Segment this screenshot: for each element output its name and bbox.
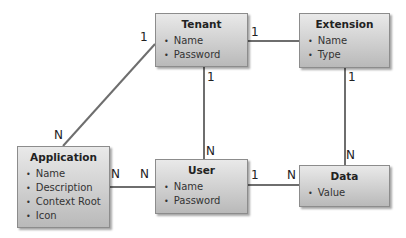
entity-title: Data xyxy=(300,170,389,182)
cardinality-label: 1 xyxy=(348,70,356,84)
entity-tenant: Tenant Name Password xyxy=(155,13,248,67)
attribute: Name xyxy=(164,34,247,48)
attribute: Password xyxy=(164,194,247,208)
cardinality-label: N xyxy=(54,128,63,142)
cardinality-label: 1 xyxy=(140,30,148,44)
entity-title: Application xyxy=(18,151,109,163)
entity-user: User Name Password xyxy=(155,159,248,214)
attribute: Password xyxy=(164,48,247,62)
entity-application: Application Name Description Context Roo… xyxy=(17,146,110,228)
attribute: Icon xyxy=(26,209,109,223)
entity-title: Tenant xyxy=(156,18,247,30)
cardinality-label: N xyxy=(287,168,296,182)
attribute: Value xyxy=(308,186,389,200)
attribute: Name xyxy=(164,180,247,194)
attribute: Type xyxy=(308,48,389,62)
attribute: Name xyxy=(26,167,109,181)
attribute: Description xyxy=(26,181,109,195)
cardinality-label: N xyxy=(346,148,355,162)
entity-extension: Extension Name Type xyxy=(299,13,390,68)
attribute: Name xyxy=(308,34,389,48)
entity-data: Data Value xyxy=(299,165,390,207)
cardinality-label: 1 xyxy=(251,25,259,39)
attribute: Context Root xyxy=(26,195,109,209)
cardinality-label: N xyxy=(206,144,215,158)
entity-title: User xyxy=(156,164,247,176)
cardinality-label: N xyxy=(111,167,120,181)
entity-title: Extension xyxy=(300,18,389,30)
line-tenant-application xyxy=(63,44,155,146)
cardinality-label: N xyxy=(140,167,149,181)
cardinality-label: 1 xyxy=(251,168,259,182)
cardinality-label: 1 xyxy=(207,70,215,84)
